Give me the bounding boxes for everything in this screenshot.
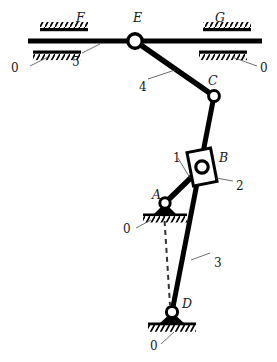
label-joint-D: D [182,298,192,311]
ground-pivot-A [136,198,187,228]
ground-pivot-D-pin [166,306,177,317]
guide-G [199,22,257,66]
ground-pivot-D-leader [161,332,174,344]
link-3-rocker [172,96,214,312]
label-joint-G: G [215,12,225,25]
label-link-5: 5 [72,56,80,68]
label-ground-A: 0 [123,223,131,235]
guide-G-lower-bar [199,51,247,54]
label-link-2: 2 [236,180,244,192]
label-ground-D: 0 [150,340,158,352]
ground-pivot-D-base-line [148,323,196,326]
ground-pivot-A-pin [160,198,170,208]
link-5-leader [82,44,100,53]
label-link-4: 4 [139,81,147,93]
pin-joint-E [128,34,142,48]
ground-pivot-D-hatch [148,325,196,332]
label-link-3: 3 [214,257,222,269]
link-4-leader [148,70,175,79]
guide-F-lower-bar [33,51,81,54]
ground-pivot-A-hatch [143,216,187,223]
label-ground-G: 0 [260,62,268,74]
pin-joint-C [209,91,220,102]
guide-G-upper-hatch [203,22,251,29]
label-joint-A: A [152,189,161,202]
label-joint-F: F [76,12,85,25]
linkage-diagram-figure: F E G C B A D 5 4 1 2 3 0 0 0 0 [0,0,277,362]
ground-pivot-A-base-line [143,214,187,217]
label-joint-E: E [133,12,142,25]
reference-dashed-line-A-D [164,212,170,305]
link-2-leader [216,178,233,181]
label-joint-C: C [208,75,218,88]
guide-G-lower-hatch [199,54,247,61]
link-3-leader [191,253,210,260]
label-joint-B: B [219,152,228,165]
label-link-1: 1 [173,152,181,164]
pin-joint-B [196,161,208,173]
label-ground-F: 0 [11,62,19,74]
